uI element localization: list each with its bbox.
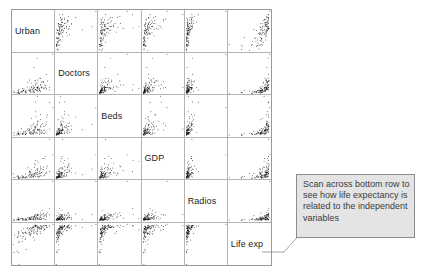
splom-cell-life-exp-vs-doctors [228,53,271,96]
scatter-plot [185,138,227,180]
scatter-plot [185,53,227,95]
scatter-plot [185,10,227,52]
splom-cell-doctors-vs-gdp [55,138,98,181]
splom-cell-radios-vs-beds [185,95,228,138]
splom-variable-label: Urban [15,26,40,36]
splom-cell-life-exp-vs-urban [228,10,271,53]
splom-cell-urban-vs-beds [12,95,55,138]
splom-cell-life-exp-vs-beds [228,95,271,138]
splom-cell-beds-vs-urban [98,10,141,53]
scatter-plot [228,10,271,52]
scatter-plot [228,138,271,180]
splom-cell-gdp-vs-life-exp [142,223,185,266]
scatter-plot [12,180,54,222]
splom-cell-doctors-vs-life-exp [55,223,98,266]
splom-cell-radios-vs-gdp [185,138,228,181]
scatter-plot [142,95,184,137]
splom-cell-gdp-vs-radios [142,180,185,223]
scatter-plot [12,53,54,95]
splom-cell-doctors-vs-beds [55,95,98,138]
scatter-plot [55,180,97,222]
scatter-plot [142,223,184,266]
splom-cell-gdp-vs-urban [142,10,185,53]
scatter-plot [98,53,140,95]
splom-grid: UrbanDoctorsBedsGDPRadiosLife exp [12,10,271,265]
scatter-plot [98,180,140,222]
scatter-plot [228,180,271,222]
scatter-plot [55,223,97,266]
splom-cell-beds-vs-doctors [98,53,141,96]
scatter-plot [185,223,227,266]
callout-text: Scan across bottom row to see how life e… [303,179,410,224]
splom-cell-radios-vs-life-exp [185,223,228,266]
splom-cell-gdp-vs-beds [142,95,185,138]
scatter-plot [55,138,97,180]
splom-cell-doctors-vs-radios [55,180,98,223]
scatter-plot [12,223,54,266]
scatter-plot [55,95,97,137]
splom-variable-label: Doctors [58,68,90,78]
splom-variable-label: GDP [145,153,165,163]
splom-cell-radios-vs-doctors [185,53,228,96]
scatter-plot [142,180,184,222]
splom-diagonal-cell-radios: Radios [185,180,228,223]
splom-cell-urban-vs-doctors [12,53,55,96]
scatter-plot [142,53,184,95]
splom-variable-label: Life exp [231,239,263,249]
scatterplot-matrix: UrbanDoctorsBedsGDPRadiosLife exp [11,9,272,266]
scatter-plot [142,10,184,52]
splom-cell-radios-vs-urban [185,10,228,53]
splom-cell-urban-vs-life-exp [12,223,55,266]
splom-cell-life-exp-vs-gdp [228,138,271,181]
scatter-plot [12,95,54,137]
scatter-plot [98,138,140,180]
scatter-plot [55,10,97,52]
splom-diagonal-cell-beds: Beds [98,95,141,138]
splom-variable-label: Radios [188,196,217,206]
figure-root: UrbanDoctorsBedsGDPRadiosLife exp Scan a… [0,0,424,274]
splom-cell-urban-vs-gdp [12,138,55,181]
splom-cell-beds-vs-gdp [98,138,141,181]
scatter-plot [12,138,54,180]
splom-diagonal-cell-urban: Urban [12,10,55,53]
splom-diagonal-cell-doctors: Doctors [55,53,98,96]
splom-diagonal-cell-gdp: GDP [142,138,185,181]
scatter-plot [228,53,271,95]
scatter-plot [228,95,271,137]
splom-cell-beds-vs-life-exp [98,223,141,266]
scatter-plot [98,10,140,52]
splom-cell-urban-vs-radios [12,180,55,223]
splom-variable-label: Beds [101,111,122,121]
splom-cell-beds-vs-radios [98,180,141,223]
splom-cell-gdp-vs-doctors [142,53,185,96]
callout-box: Scan across bottom row to see how life e… [296,174,415,238]
scatter-plot [98,223,140,266]
splom-cell-doctors-vs-urban [55,10,98,53]
scatter-plot [185,95,227,137]
splom-cell-life-exp-vs-radios [228,180,271,223]
